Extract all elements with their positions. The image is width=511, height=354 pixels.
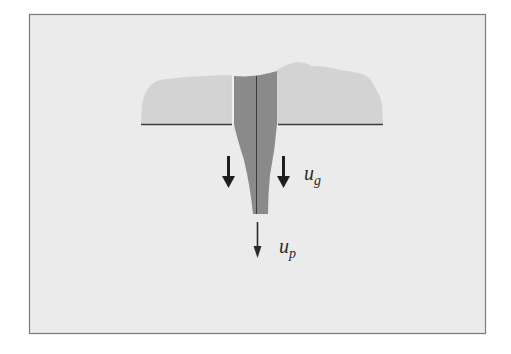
particle-velocity-label: up — [279, 236, 296, 261]
particle-velocity-subscript: p — [289, 246, 296, 261]
diagram-figure: ug up — [0, 0, 511, 354]
diagram-canvas — [0, 0, 511, 354]
gas-velocity-symbol: u — [304, 162, 314, 184]
particle-velocity-symbol: u — [279, 235, 289, 257]
left-surface-lobe — [141, 75, 232, 124]
gas-velocity-subscript: g — [314, 173, 321, 188]
gas-velocity-label: ug — [304, 163, 321, 188]
